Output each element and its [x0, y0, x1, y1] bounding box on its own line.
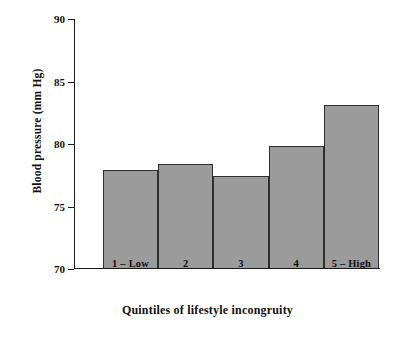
y-tick-label: 80: [54, 138, 65, 150]
y-tick-mark: [68, 269, 74, 270]
bar: [269, 146, 324, 267]
x-tick-label: 3: [238, 258, 243, 269]
bar: [103, 170, 158, 268]
x-tick-label: 1 – Low: [112, 258, 149, 269]
y-tick-label: 90: [54, 13, 65, 25]
bar: [158, 164, 213, 268]
x-axis-title: Quintiles of lifestyle incongruity: [0, 303, 415, 318]
y-axis-title: Blood pressure (mm Hg): [31, 41, 43, 221]
y-tick-mark: [68, 19, 74, 20]
y-tick-label: 85: [54, 76, 65, 88]
plot-area: 7075808590: [74, 19, 380, 269]
y-tick-label: 75: [54, 201, 65, 213]
y-axis-line: [74, 19, 75, 269]
y-tick-mark: [68, 144, 74, 145]
bar-chart: Blood pressure (mm Hg) 7075808590 1 – Lo…: [0, 0, 415, 340]
x-tick-label: 5 – High: [332, 258, 372, 269]
x-tick-label: 4: [293, 258, 298, 269]
y-tick-mark: [68, 82, 74, 83]
y-tick-label: 70: [54, 263, 65, 275]
bar: [324, 105, 379, 268]
x-tick-label: 2: [183, 258, 188, 269]
y-tick-mark: [68, 207, 74, 208]
bar: [213, 176, 268, 267]
